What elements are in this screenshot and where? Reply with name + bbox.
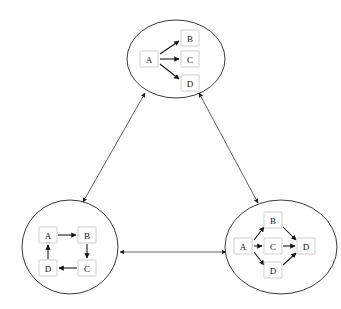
connector-top-to-bottom-left [83,93,145,202]
node-label: B [187,34,193,44]
node-label: A [240,242,247,252]
connector-top-to-bottom-right [199,93,258,203]
node-label: C [187,55,193,65]
cluster-bottom-left-ellipse [22,200,118,294]
node-bottom-left-b: B [78,227,96,243]
cluster-bottom-right: A B C D D [225,200,337,294]
node-bottom-right-a: A [234,238,252,254]
node-label: A [146,55,153,65]
node-top-c: C [181,51,199,67]
cluster-bottom-left: A B C D [22,200,118,294]
cluster-top: A B C D [127,20,225,98]
node-label: C [84,264,90,274]
node-bottom-left-c: C [78,260,96,276]
node-bottom-right-b: B [264,212,282,228]
node-label: B [270,216,276,226]
node-bottom-left-a: A [39,227,57,243]
node-top-d: D [181,75,199,91]
node-bottom-right-c: C [264,238,282,254]
node-label: D [187,79,194,89]
node-label: D [270,266,277,276]
node-top-b: B [181,30,199,46]
graph-triad-diagram: A B C D [0,0,341,309]
node-bottom-right-d-right: D [297,238,315,254]
diagram-root: A B C D [0,0,341,309]
node-bottom-left-d: D [39,260,57,276]
node-label: C [270,242,276,252]
node-bottom-right-d-bottom: D [264,262,282,278]
node-top-a: A [140,51,158,67]
node-label: D [45,264,52,274]
node-label: D [303,242,310,252]
node-label: B [84,231,90,241]
node-label: A [45,231,52,241]
